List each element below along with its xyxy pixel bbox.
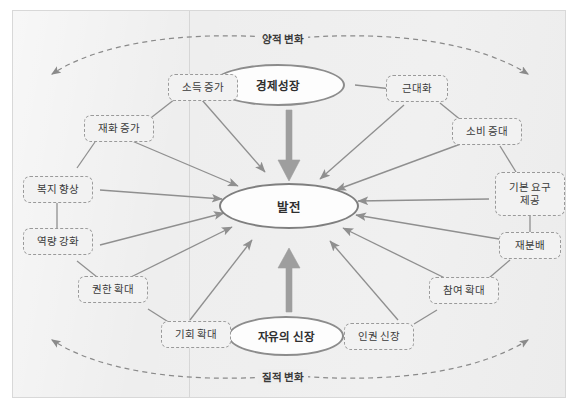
arrow-authority-to-development [131, 227, 232, 277]
arrow-goods-to-development [125, 138, 238, 186]
arrow-income-to-development [202, 100, 265, 172]
node-participation-expansion[interactable]: 참여 확대 [429, 277, 499, 304]
ellipse-freedom-expansion-label: 자유의 신장 [258, 328, 315, 344]
node-modernization[interactable]: 근대화 [386, 75, 448, 102]
arrow-modernization-to-development [320, 105, 404, 179]
node-income-increase[interactable]: 소득 증가 [168, 74, 238, 101]
ellipse-development-label: 발전 [277, 197, 301, 216]
node-authority-expansion-label: 권한 확대 [92, 283, 134, 296]
node-goods-increase[interactable]: 재화 증가 [84, 115, 154, 142]
node-redistribution[interactable]: 재분배 [499, 232, 561, 259]
thick-arrow-growth-to-development [278, 110, 300, 181]
arrow-welfare-to-development [100, 190, 222, 199]
node-human-rights-advancement[interactable]: 인권 신장 [344, 323, 414, 350]
arrow-basicneeds-to-development [358, 199, 489, 201]
node-goods-increase-label: 재화 증가 [98, 122, 140, 135]
arc-label-quantitative-change: 양적 변화 [258, 31, 308, 46]
node-opportunity-expansion-label: 기회 확대 [175, 328, 217, 341]
arc-label-quantitative-change-text: 양적 변화 [262, 33, 304, 45]
node-consumption-increase[interactable]: 소비 증대 [452, 118, 522, 145]
diagram-canvas: 경제성장 발전 자유의 신장 소득 증가 재화 증가 복지 향상 역량 강화 권… [0, 0, 578, 415]
node-capacity-strengthening[interactable]: 역량 강화 [23, 228, 93, 255]
arc-label-qualitative-change: 질적 변화 [258, 369, 308, 384]
node-modernization-label: 근대화 [402, 82, 431, 95]
node-capacity-strengthening-label: 역량 강화 [37, 235, 79, 248]
node-basic-needs-provision[interactable]: 기본 요구 제공 [495, 172, 565, 216]
arrow-consumption-to-development [336, 142, 466, 190]
arc-label-qualitative-change-text: 질적 변화 [262, 371, 304, 383]
node-welfare-improvement[interactable]: 복지 향상 [23, 176, 93, 203]
node-participation-expansion-label: 참여 확대 [443, 284, 485, 297]
node-basic-needs-provision-label: 기본 요구 제공 [509, 181, 551, 207]
ellipse-freedom-expansion[interactable]: 자유의 신장 [228, 316, 344, 356]
ellipse-development[interactable]: 발전 [219, 183, 359, 229]
arrow-humanrights-to-development [330, 241, 398, 320]
node-redistribution-label: 재분배 [515, 239, 544, 252]
arrow-redistribution-to-development [356, 215, 505, 240]
thick-arrow-freedom-to-development [278, 248, 300, 312]
node-human-rights-advancement-label: 인권 신장 [358, 330, 400, 343]
ellipse-economic-growth-label: 경제성장 [256, 77, 299, 93]
node-authority-expansion[interactable]: 권한 확대 [78, 276, 148, 303]
node-welfare-improvement-label: 복지 향상 [37, 183, 79, 196]
node-opportunity-expansion[interactable]: 기회 확대 [161, 321, 231, 348]
node-income-increase-label: 소득 증가 [182, 81, 224, 94]
node-consumption-increase-label: 소비 증대 [466, 125, 508, 138]
arrow-opportunity-to-development [190, 240, 252, 320]
